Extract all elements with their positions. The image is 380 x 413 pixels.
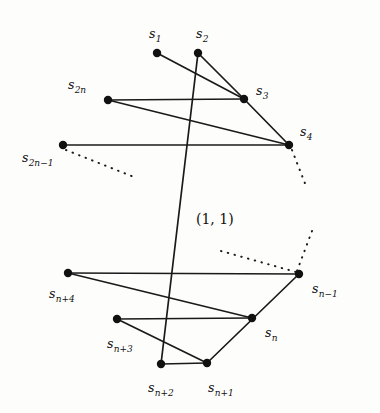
vertex-label-sn+4: sn+4 [49, 288, 75, 304]
vertex-dot-s2 [194, 49, 202, 57]
upper-right-ellipsis [292, 150, 306, 186]
vertex-dot-s4 [285, 141, 293, 149]
vertex-dot-sn+4 [64, 269, 72, 277]
vertex-dot-s3 [240, 95, 248, 103]
edge-s1-s3 [157, 53, 244, 99]
vertex-dot-sn-1 [295, 270, 303, 278]
vertex-dot-s1 [153, 49, 161, 57]
vertex-label-sn-1: sn−1 [312, 283, 338, 299]
dotted-paths-group [66, 150, 312, 272]
edge-sn+4-sn-1 [68, 273, 299, 274]
vertex-label-s2n: s2n [68, 79, 86, 95]
vertex-label-sn+1: sn+1 [208, 382, 234, 398]
vertex-label-sn: sn [265, 327, 277, 343]
vertex-label-sn+2: sn+2 [148, 382, 174, 398]
vertex-dot-sn+1 [203, 359, 211, 367]
right-ellipsis [297, 231, 312, 271]
vertex-label-s2n-1: s2n−1 [22, 152, 53, 168]
vertex-label-s3: s3 [256, 85, 268, 101]
vertex-dot-sn [248, 314, 256, 322]
edge-s3-s2n [108, 99, 244, 100]
figure-graphics [0, 0, 380, 413]
edge-s2n-s4 [108, 100, 289, 145]
mid-right-ellipsis [221, 251, 296, 272]
coordinate-annotation: (1, 1) [196, 212, 234, 226]
vertex-label-s4: s4 [300, 126, 312, 142]
vertex-dot-s2n-1 [59, 141, 67, 149]
vertex-label-sn+3: sn+3 [107, 338, 133, 354]
edge-sn+2-sn+1 [161, 363, 207, 364]
vertex-dot-s2n [104, 96, 112, 104]
lower-left-ellipsis [66, 150, 134, 177]
figure-canvas: s1s2s3s4s2ns2n−1sn−1snsn+1sn+2sn+3sn+4 (… [0, 0, 380, 413]
edge-sn+4-sn [68, 273, 252, 318]
vertex-label-s1: s1 [149, 28, 161, 44]
edge-s3-s4 [244, 99, 289, 145]
edge-s2-s3 [198, 53, 244, 99]
vertex-label-s2: s2 [196, 28, 208, 44]
vertex-dot-sn+3 [113, 315, 121, 323]
edge-sn+3-sn [117, 318, 252, 319]
vertex-dot-sn+2 [157, 360, 165, 368]
